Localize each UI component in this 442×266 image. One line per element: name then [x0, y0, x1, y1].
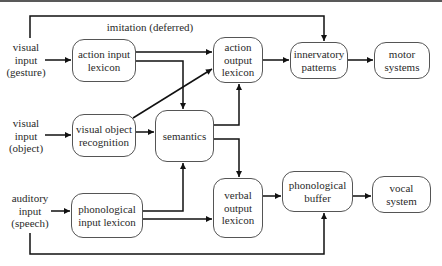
node-action-input-lexicon: action input lexicon — [72, 39, 136, 82]
node-phonological-buffer: phonological buffer — [282, 171, 353, 212]
edge-sem-aol — [214, 84, 239, 125]
input-auditory-speech: auditory input (speech) — [4, 192, 56, 230]
node-semantics: semantics — [155, 110, 214, 162]
edge-sem-vol — [214, 139, 239, 177]
input-visual-gesture: visual input (gesture) — [4, 41, 48, 79]
node-motor-systems: motor systems — [374, 42, 430, 79]
node-innervatory-patterns: innervatory patterns — [290, 42, 348, 79]
node-visual-object-recognition: visual object recognition — [72, 114, 136, 157]
node-phonological-input-lexicon: phonological input lexicon — [71, 193, 143, 238]
edge-pil-sem — [143, 163, 183, 211]
input-visual-object: visual input (object) — [4, 117, 48, 155]
node-vocal-system: vocal system — [372, 176, 431, 213]
node-action-output-lexicon: action output lexicon — [213, 37, 263, 83]
node-verbal-output-lexicon: verbal output lexicon — [213, 178, 263, 238]
imitation-deferred-label: imitation (deferred) — [90, 21, 210, 34]
